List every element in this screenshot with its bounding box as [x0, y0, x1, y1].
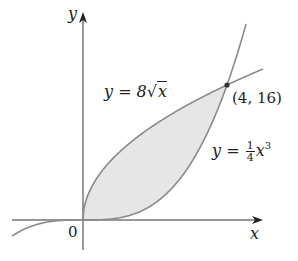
fraction-denominator: 4	[246, 152, 255, 163]
origin-label: 0	[68, 225, 78, 240]
shaded-region	[83, 85, 227, 220]
sqrt-label-radicand: x	[157, 81, 167, 101]
area-between-curves-figure: y x 0 y = 8√x (4, 16) y = 14x3	[0, 0, 298, 261]
sqrt-curve-label: y = 8√x	[104, 84, 167, 100]
y-axis-label: y	[68, 6, 77, 22]
intersection-point	[224, 82, 229, 87]
cubic-label-lhs: y =	[212, 141, 245, 160]
cubic-label-var: x	[256, 141, 265, 160]
cubic-curve-label: y = 14x3	[212, 140, 271, 163]
plot-canvas	[0, 0, 298, 261]
sqrt-label-lhs: y = 8	[104, 82, 147, 101]
x-axis-label: x	[250, 226, 259, 242]
cubic-label-exponent: 3	[265, 140, 271, 151]
intersection-label: (4, 16)	[232, 91, 282, 106]
fraction-one-quarter: 14	[246, 140, 255, 163]
radical-icon: √	[147, 82, 157, 101]
